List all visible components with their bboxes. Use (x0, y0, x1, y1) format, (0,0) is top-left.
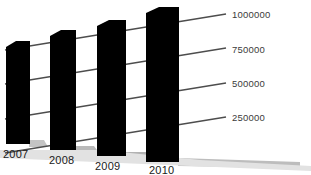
bar-2008-body (50, 36, 76, 150)
x-category-label-2008: 2008 (49, 154, 74, 166)
bar-2010-body (146, 13, 179, 162)
x-category-label-2007: 2007 (3, 148, 28, 160)
bar-2010[interactable] (146, 7, 179, 162)
x-category-label-2010: 2010 (149, 164, 174, 175)
y-tick-label-1000000: 1000000 (232, 9, 270, 20)
x-category-label-2009: 2009 (95, 160, 120, 172)
bar-chart: 1000000 750000 500000 250000 2007 2008 2… (0, 0, 311, 175)
bar-2008[interactable] (50, 30, 76, 150)
bar-2009[interactable] (97, 20, 126, 156)
y-tick-label-500000: 500000 (232, 78, 265, 89)
bar-2009-body (97, 26, 126, 156)
bar-2007-body (6, 47, 30, 144)
y-tick-label-750000: 750000 (232, 44, 265, 55)
y-tick-label-250000: 250000 (232, 112, 265, 123)
bar-2007[interactable] (6, 41, 30, 144)
